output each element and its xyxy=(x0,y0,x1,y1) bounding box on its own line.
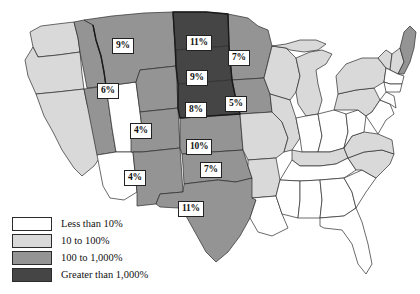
legend: Less than 10% 10 to 100% 100 to 1,000% G… xyxy=(12,215,148,283)
state-wyoming xyxy=(136,66,178,112)
legend-swatch-100-to-1000 xyxy=(12,251,52,265)
callout-south-dakota: 9% xyxy=(186,70,208,86)
callout-iowa: 5% xyxy=(225,96,247,112)
state-ohio xyxy=(318,110,348,152)
legend-swatch-10-to-100 xyxy=(12,234,52,248)
legend-label-100-to-1000: 100 to 1,000% xyxy=(61,252,123,263)
legend-label-less-than-10: Less than 10% xyxy=(61,218,123,229)
legend-row-10-to-100: 10 to 100% xyxy=(12,232,148,249)
state-florida xyxy=(320,208,372,274)
state-arkansas xyxy=(248,158,280,198)
callout-wyoming: 6% xyxy=(97,83,119,99)
callout-texas: 11% xyxy=(178,201,204,217)
callout-colorado: 4% xyxy=(130,123,152,139)
legend-row-greater-than-1000: Greater than 1,000% xyxy=(12,266,148,283)
callout-montana: 9% xyxy=(112,38,134,54)
legend-row-less-than-10: Less than 10% xyxy=(12,215,148,232)
legend-swatch-less-than-10 xyxy=(12,217,52,231)
callout-new-mexico: 4% xyxy=(124,170,146,186)
legend-swatch-greater-than-1000 xyxy=(12,268,52,282)
state-washington xyxy=(30,22,80,57)
state-minnesota xyxy=(228,14,272,80)
legend-row-100-to-1000: 100 to 1,000% xyxy=(12,249,148,266)
callout-nebraska: 8% xyxy=(185,102,207,118)
callout-minnesota: 7% xyxy=(228,50,250,66)
state-indiana xyxy=(296,114,322,152)
legend-label-10-to-100: 10 to 100% xyxy=(61,235,109,246)
legend-label-greater-than-1000: Greater than 1,000% xyxy=(61,269,148,280)
callout-oklahoma: 7% xyxy=(200,162,222,178)
callout-kansas: 10% xyxy=(186,139,212,155)
state-new-york xyxy=(336,58,386,94)
callout-north-dakota: 11% xyxy=(186,35,212,51)
us-choropleth-map-figure: 9% 11% 7% 6% 9% 8% 5% 4% 10% 4% 7% 11% L… xyxy=(0,0,420,294)
state-michigan xyxy=(296,50,332,116)
state-alabama xyxy=(298,180,322,218)
